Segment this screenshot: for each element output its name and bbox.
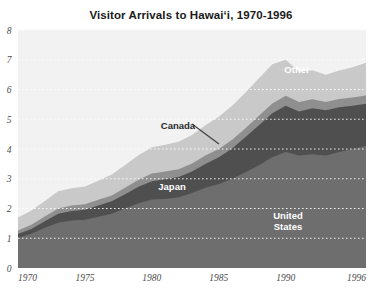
series-label-united-states: States [274, 221, 303, 232]
stacked-area-chart: 012345678 197019751980198519901996 Other… [0, 0, 382, 299]
y-axis-tick-label: 6 [7, 85, 12, 95]
series-label-united-states: United [273, 210, 303, 221]
x-axis-tick-label: 1975 [75, 273, 94, 283]
x-axis-labels-group: 197019751980198519901996 [18, 273, 366, 283]
y-axis-tick-label: 7 [7, 55, 13, 65]
y-axis-tick-label: 2 [7, 204, 12, 214]
y-axis-tick-label: 1 [7, 234, 12, 244]
x-axis-tick-label: 1970 [18, 273, 37, 283]
series-label-japan: Japan [158, 181, 186, 192]
y-axis-tick-label: 4 [7, 145, 12, 155]
series-label-other: Other [284, 64, 310, 75]
y-axis-tick-label: 8 [7, 26, 12, 36]
x-axis-tick-label: 1985 [209, 273, 228, 283]
chart-container: Visitor Arrivals to Hawai‘i, 1970-1996 0… [0, 0, 382, 299]
y-axis-tick-label: 0 [7, 264, 12, 274]
x-axis-tick-label: 1990 [276, 273, 295, 283]
y-axis-tick-label: 3 [6, 174, 12, 184]
y-axis-labels-group: 012345678 [6, 26, 13, 274]
y-axis-tick-label: 5 [7, 115, 12, 125]
x-axis-tick-label: 1996 [347, 273, 366, 283]
x-axis-tick-label: 1980 [142, 273, 161, 283]
series-label-canada: Canada [161, 120, 196, 131]
